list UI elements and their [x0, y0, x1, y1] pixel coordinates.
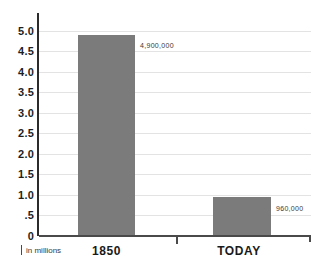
units-note: in millions	[26, 247, 61, 255]
plot-area	[39, 13, 311, 236]
y-tick-label-3-0: 3.0	[4, 108, 34, 119]
bar-1850	[78, 35, 135, 236]
category-label-1850: 1850	[78, 245, 135, 257]
y-axis-tick-labels: 5.0 4.5 4.0 3.5 3.0 2.5 2.0 1.5 1.0 .5 0	[0, 0, 34, 270]
x-axis-mid-tick	[176, 236, 178, 244]
bar-value-label-1850: 4,900,000	[140, 42, 174, 49]
y-tick-label-4-5: 4.5	[4, 46, 34, 57]
y-tick-label-4-0: 4.0	[4, 67, 34, 78]
gridline-5-0	[39, 31, 311, 32]
y-tick-label-5-0: 5.0	[4, 26, 34, 37]
units-note-tick	[21, 245, 22, 255]
x-axis-end-tick	[309, 235, 311, 242]
y-tick-label-2-5: 2.5	[4, 128, 34, 139]
y-tick-label-1-0: 1.0	[4, 190, 34, 201]
bar-value-label-today: 960,000	[276, 205, 303, 212]
bar-chart: 5.0 4.5 4.0 3.5 3.0 2.5 2.0 1.5 1.0 .5 0…	[0, 0, 332, 270]
category-label-today: TODAY	[208, 245, 270, 257]
y-tick-label-0: 0	[4, 231, 34, 242]
y-tick-label-2-0: 2.0	[4, 149, 34, 160]
y-axis-line	[37, 13, 39, 236]
y-tick-label-3-5: 3.5	[4, 87, 34, 98]
bar-today	[213, 197, 271, 236]
y-tick-label-1-5: 1.5	[4, 169, 34, 180]
y-tick-label-0-5: .5	[4, 210, 34, 221]
x-axis-line	[39, 235, 311, 237]
